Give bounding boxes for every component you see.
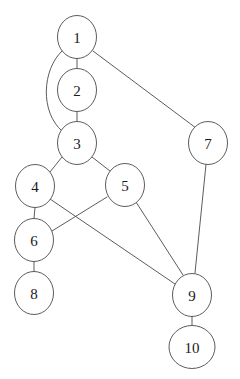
node-label-7: 7 <box>204 136 212 152</box>
graph-node-8[interactable]: 8 <box>15 272 54 315</box>
graph-node-1[interactable]: 1 <box>58 16 97 59</box>
node-label-4: 4 <box>31 179 39 195</box>
graph-node-10[interactable]: 10 <box>169 326 215 369</box>
graph-diagram: 12345678910 <box>0 0 240 379</box>
node-label-6: 6 <box>30 233 38 249</box>
graph-node-3[interactable]: 3 <box>58 122 97 165</box>
graph-node-2[interactable]: 2 <box>58 69 97 112</box>
node-label-5: 5 <box>121 178 129 194</box>
node-label-9: 9 <box>188 288 196 304</box>
node-label-2: 2 <box>73 83 81 99</box>
graph-node-5[interactable]: 5 <box>106 164 145 207</box>
graph-node-9[interactable]: 9 <box>173 274 212 317</box>
node-label-1: 1 <box>73 30 81 46</box>
node-label-3: 3 <box>73 136 81 152</box>
graph-node-4[interactable]: 4 <box>16 165 55 208</box>
node-label-10: 10 <box>185 340 200 356</box>
graph-node-7[interactable]: 7 <box>189 122 228 165</box>
node-label-8: 8 <box>30 286 38 302</box>
graph-node-6[interactable]: 6 <box>15 219 54 262</box>
